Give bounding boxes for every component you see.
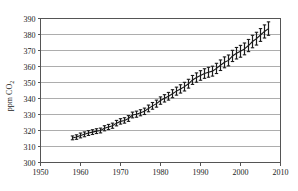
y-tick-label-360: 360: [24, 63, 36, 72]
x-tick-label-2000: 2000: [233, 168, 249, 177]
x-tick-label-1950: 1950: [33, 168, 49, 177]
co2-chart: 1950196019701980199020002010 30031032033…: [0, 0, 298, 191]
x-tick-label-1980: 1980: [153, 168, 169, 177]
y-tick-label-310: 310: [24, 143, 36, 152]
y-tick-label-330: 330: [24, 111, 36, 120]
y-tick-label-350: 350: [24, 79, 36, 88]
y-axis-title-text: ppm CO2: [5, 81, 15, 111]
y-axis-title: ppm CO2: [5, 81, 15, 111]
y-tick-label-300: 300: [24, 159, 36, 168]
x-tick-label-1960: 1960: [73, 168, 89, 177]
y-tick-label-320: 320: [24, 127, 36, 136]
x-tick-label-2010: 2010: [273, 168, 289, 177]
x-tick-label-1970: 1970: [113, 168, 129, 177]
y-tick-label-340: 340: [24, 95, 36, 104]
x-tick-label-1990: 1990: [193, 168, 209, 177]
y-tick-label-380: 380: [24, 31, 36, 40]
y-tick-label-390: 390: [24, 15, 36, 24]
y-tick-label-370: 370: [24, 47, 36, 56]
chart-canvas: 1950196019701980199020002010 30031032033…: [0, 0, 298, 191]
